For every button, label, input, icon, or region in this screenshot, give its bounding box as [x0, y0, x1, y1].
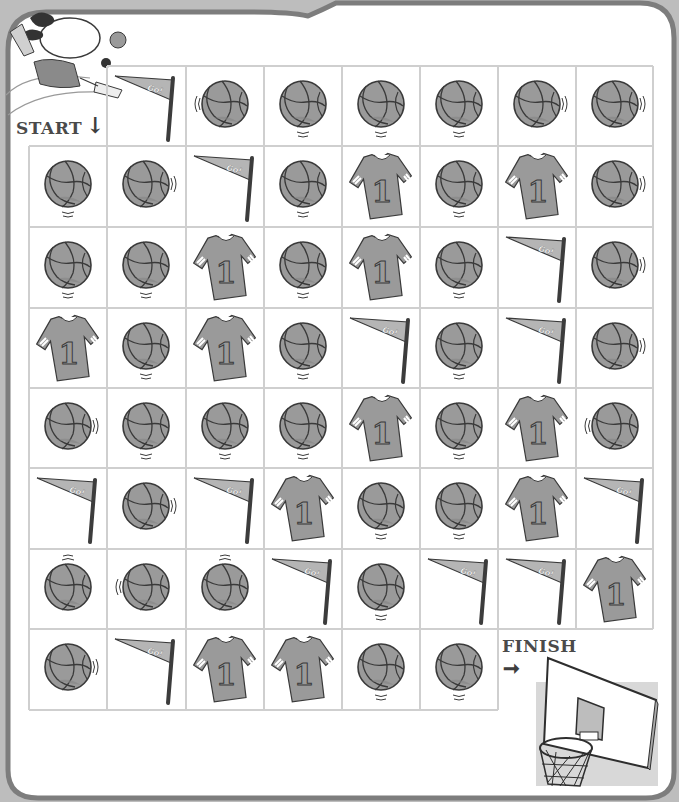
maze-cell-ball[interactable]: [576, 388, 654, 468]
maze-cell-jersey[interactable]: 1: [576, 549, 654, 629]
bounce-lines: [453, 132, 465, 137]
maze-cell-jersey[interactable]: 1: [342, 146, 420, 226]
maze-cell-jersey[interactable]: 1: [186, 227, 264, 307]
maze-cell-pennant[interactable]: Go!: [576, 468, 654, 548]
basketball-icon: [358, 483, 404, 529]
jersey-icon: 1: [504, 474, 570, 542]
bounce-lines: [62, 212, 74, 217]
maze-cell-ball[interactable]: [420, 66, 498, 146]
maze-cell-ball[interactable]: [186, 66, 264, 146]
maze-cell-ball[interactable]: [498, 66, 576, 146]
maze-cell-ball[interactable]: [420, 388, 498, 468]
maze-cell-ball[interactable]: [186, 549, 264, 629]
maze-cell-jersey[interactable]: 1: [342, 227, 420, 307]
maze-cell-pennant[interactable]: Go!: [264, 549, 342, 629]
shake-lines: [93, 418, 98, 434]
basketball-icon: [202, 403, 248, 449]
maze-cell-jersey[interactable]: 1: [264, 468, 342, 548]
maze-cell-pennant[interactable]: Go!: [498, 227, 576, 307]
maze-cell-ball[interactable]: [107, 388, 185, 468]
basketball-icon: [436, 403, 482, 449]
bounce-lines: [375, 615, 387, 620]
maze-cell-ball[interactable]: [342, 629, 420, 709]
maze-cell-jersey[interactable]: 1: [498, 146, 576, 226]
maze-cell-ball[interactable]: [107, 146, 185, 226]
maze-cell-pennant[interactable]: Go!: [107, 66, 185, 146]
basketball-icon: [436, 161, 482, 207]
maze-cell-ball[interactable]: [264, 146, 342, 226]
maze-cell-ball[interactable]: [264, 227, 342, 307]
maze-cell-ball[interactable]: [576, 308, 654, 388]
pennant-icon: Go!: [506, 237, 564, 301]
maze-cell-jersey[interactable]: 1: [264, 629, 342, 709]
pennant-icon: Go!: [272, 559, 330, 623]
maze-cell-ball[interactable]: [107, 468, 185, 548]
maze-cell-pennant[interactable]: Go!: [498, 549, 576, 629]
maze-cell-pennant[interactable]: Go!: [186, 146, 264, 226]
maze-cell-ball[interactable]: [420, 308, 498, 388]
bounce-lines: [453, 534, 465, 539]
basketball-icon: [592, 403, 638, 449]
maze-cell-pennant[interactable]: Go!: [186, 468, 264, 548]
maze-cell-ball[interactable]: [186, 388, 264, 468]
basketball-icon: [202, 564, 248, 610]
maze-cell-ball[interactable]: [107, 308, 185, 388]
jersey-number: 1: [294, 657, 315, 692]
maze-cell-ball[interactable]: [107, 549, 185, 629]
basketball-icon: [436, 483, 482, 529]
basketball-icon: [123, 242, 169, 288]
shake-lines: [640, 257, 645, 273]
basketball-icon: [280, 161, 326, 207]
maze-cell-pennant[interactable]: Go!: [107, 629, 185, 709]
maze-cell-ball[interactable]: [29, 549, 107, 629]
basketball-icon: [514, 81, 560, 127]
maze-cell-ball[interactable]: [264, 388, 342, 468]
shake-lines: [640, 96, 645, 112]
maze-cell-ball[interactable]: [29, 146, 107, 226]
maze-cell-ball[interactable]: [576, 227, 654, 307]
jersey-icon: 1: [270, 635, 336, 703]
maze-cell-ball[interactable]: [342, 66, 420, 146]
basketball-icon: [45, 403, 91, 449]
jersey-number: 1: [528, 416, 549, 451]
jersey-number: 1: [216, 255, 237, 290]
bounce-lines: [453, 695, 465, 700]
maze-cell-pennant[interactable]: Go!: [342, 308, 420, 388]
maze-cell-ball[interactable]: [420, 227, 498, 307]
pennant-icon: Go!: [350, 318, 408, 382]
maze-cell-ball[interactable]: [29, 388, 107, 468]
bounce-lines: [219, 454, 231, 459]
maze-cell-ball[interactable]: [420, 146, 498, 226]
maze-cell-jersey[interactable]: 1: [186, 308, 264, 388]
basketball-icon: [123, 161, 169, 207]
maze-cell-jersey[interactable]: 1: [186, 629, 264, 709]
shake-lines: [640, 338, 645, 354]
bounce-lines: [140, 293, 152, 298]
maze-cell-ball[interactable]: [29, 629, 107, 709]
maze-cell-ball[interactable]: [576, 146, 654, 226]
jersey-number: 1: [294, 496, 315, 531]
maze-cell-jersey[interactable]: 1: [342, 388, 420, 468]
maze-cell-ball[interactable]: [576, 66, 654, 146]
jersey-icon: 1: [192, 233, 258, 301]
shake-lines: [195, 96, 200, 112]
jersey-number: 1: [372, 416, 393, 451]
maze-cell-ball[interactable]: [420, 468, 498, 548]
maze-cell-ball[interactable]: [342, 549, 420, 629]
maze-cell-ball[interactable]: [264, 66, 342, 146]
maze-cell-pennant[interactable]: Go!: [498, 308, 576, 388]
maze-cell-ball[interactable]: [342, 468, 420, 548]
pennant-icon: Go!: [37, 478, 95, 542]
maze-cell-ball[interactable]: [420, 629, 498, 709]
maze-cell-pennant[interactable]: Go!: [29, 468, 107, 548]
maze-cell-jersey[interactable]: 1: [498, 468, 576, 548]
maze-cell-ball[interactable]: [107, 227, 185, 307]
maze-cell-jersey[interactable]: 1: [29, 308, 107, 388]
maze-cell-ball[interactable]: [29, 227, 107, 307]
basketball-icon: [123, 323, 169, 369]
basketball-icon: [592, 242, 638, 288]
maze-cell-pennant[interactable]: Go!: [420, 549, 498, 629]
maze-cell-ball[interactable]: [264, 308, 342, 388]
maze-cell-jersey[interactable]: 1: [498, 388, 576, 468]
basketball-icon: [280, 242, 326, 288]
